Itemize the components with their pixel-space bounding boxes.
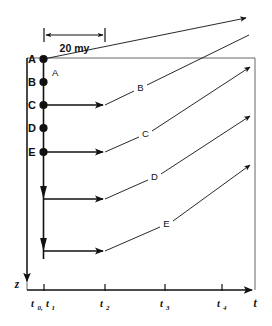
tick-label-t3-text: t	[160, 298, 164, 309]
exhumation-path-B	[105, 35, 249, 105]
tick-label-t0t1-sub2: 1	[52, 304, 56, 312]
path-label-E: E	[163, 218, 169, 229]
horizontal-paths	[44, 105, 104, 251]
sample-label-B: B	[28, 76, 36, 88]
t-axis-label: t	[253, 297, 257, 309]
tick-label-t4: t 4	[217, 298, 227, 312]
exhumation-path-D	[105, 116, 250, 199]
exhumation-path-A	[44, 18, 247, 59]
path-label-D: D	[151, 171, 158, 182]
tick-label-t0t1-text2: t	[46, 298, 50, 309]
tick-label-t2-text: t	[100, 298, 104, 309]
sample-dot-D	[39, 124, 47, 132]
tick-label-t2-sub: 2	[105, 304, 110, 312]
tick-label-t3: t 3	[160, 298, 170, 312]
path-label-C: C	[142, 128, 149, 139]
tick-label-t0t1: t 0, t 1	[31, 298, 55, 312]
tick-label-t0t1-text: t	[31, 298, 35, 309]
scale-bar	[44, 28, 105, 42]
sample-label-A: A	[28, 53, 36, 65]
exhumation-path-C	[105, 67, 250, 152]
tick-label-t4-sub: 4	[222, 304, 227, 312]
figure-container: 20 my	[0, 0, 272, 326]
sample-dot-B	[39, 78, 47, 86]
path-label-A: A	[52, 67, 59, 78]
t-axis	[27, 284, 252, 291]
sample-label-C: C	[28, 99, 36, 111]
z-axis-label: z	[14, 278, 20, 290]
diagram-canvas: 20 my	[0, 0, 272, 326]
tick-label-t4-text: t	[217, 298, 221, 309]
exhumation-path-E	[105, 165, 250, 251]
tick-label-t3-sub: 3	[165, 304, 170, 312]
scale-bar-label: 20 my	[60, 42, 90, 54]
tick-label-t2: t 2	[100, 298, 110, 312]
sample-label-D: D	[28, 122, 36, 134]
sample-label-E: E	[28, 146, 35, 158]
tick-label-t0t1-sub: 0,	[38, 304, 44, 312]
path-label-B: B	[137, 82, 143, 93]
